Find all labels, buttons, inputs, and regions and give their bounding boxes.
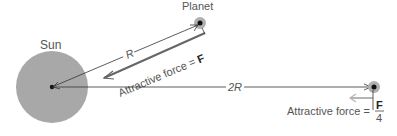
planet-label: Planet — [182, 0, 213, 12]
far-planet — [372, 85, 377, 90]
force-far-denominator: 4 — [376, 112, 382, 124]
gravity-diagram: Sun Planet R Attractive force = F 2R Att… — [0, 0, 397, 136]
force-far-numerator: F — [376, 99, 383, 111]
sun-label: Sun — [40, 38, 61, 52]
force-label-far: Attractive force = — [287, 105, 370, 117]
distance-label-far: 2R — [227, 81, 242, 93]
